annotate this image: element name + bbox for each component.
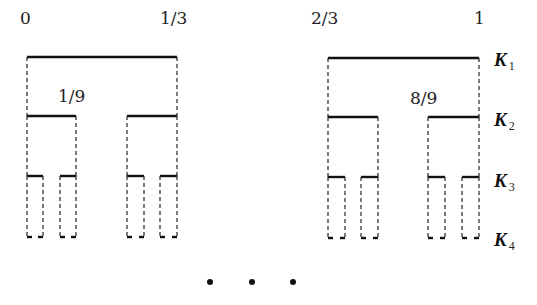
connectors-k1-k2: [27, 57, 479, 117]
level-k3-intervals: [27, 176, 479, 177]
level-k4-intervals: [27, 237, 479, 238]
level-label-k4: K4: [493, 229, 515, 253]
label-0: 0: [20, 8, 31, 28]
ellipsis-dots: [207, 279, 296, 285]
dot-2: [249, 279, 255, 285]
dot-1: [207, 279, 213, 285]
level-label-k2: K2: [493, 109, 515, 133]
dot-3: [290, 279, 296, 285]
label-1-9: 1/9: [58, 86, 85, 106]
label-1: 1: [474, 8, 485, 28]
label-2-3: 2/3: [311, 8, 338, 28]
label-1-3: 1/3: [160, 8, 187, 28]
cantor-set-diagram: 0 1/3 2/3 1 1/9 8/9: [0, 0, 537, 305]
label-8-9: 8/9: [410, 88, 437, 108]
level-k2-intervals: [27, 116, 479, 117]
connectors-k3-k4: [27, 176, 479, 238]
level-k1-intervals: [27, 57, 479, 58]
level-label-k3: K3: [493, 170, 515, 194]
connectors-k2-k3: [27, 116, 479, 177]
level-label-k1: K1: [493, 49, 515, 73]
